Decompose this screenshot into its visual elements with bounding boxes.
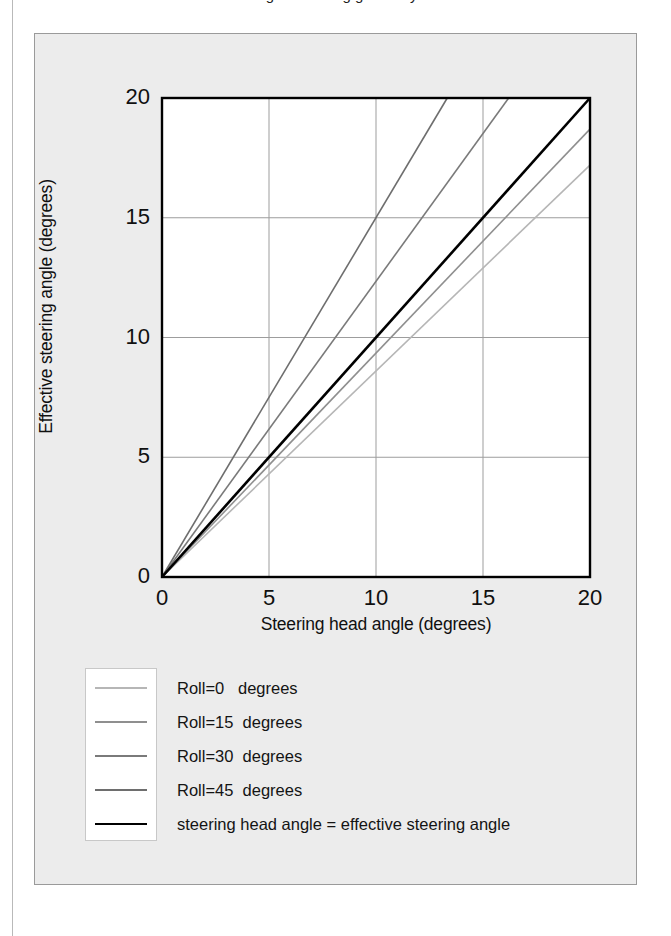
legend-item[interactable]: Roll=15 degrees bbox=[85, 708, 302, 736]
x-tick-label: 20 bbox=[568, 587, 612, 609]
legend-label: Roll=15 degrees bbox=[177, 713, 302, 732]
x-tick-label: 10 bbox=[354, 587, 398, 609]
legend-label: Roll=45 degrees bbox=[177, 781, 302, 800]
legend-swatch-line-icon bbox=[95, 789, 147, 791]
x-tick-label: 5 bbox=[247, 587, 291, 609]
y-tick-label: 15 bbox=[106, 206, 150, 228]
legend-label: Roll=0 degrees bbox=[177, 679, 298, 698]
legend-label: Roll=30 degrees bbox=[177, 747, 302, 766]
y-axis-title: Effective steering angle (degrees) bbox=[36, 157, 57, 457]
legend-item[interactable]: Roll=0 degrees bbox=[85, 674, 298, 702]
legend-swatch-line-icon bbox=[95, 687, 147, 689]
y-tick-label: 10 bbox=[106, 326, 150, 348]
legend-item[interactable]: Roll=30 degrees bbox=[85, 742, 302, 770]
legend-label: steering head angle = effective steering… bbox=[177, 815, 510, 834]
legend-swatch-line-icon bbox=[95, 755, 147, 757]
legend-swatch-line-icon bbox=[95, 823, 147, 826]
x-axis-title: Steering head angle (degrees) bbox=[162, 614, 590, 635]
y-tick-label: 5 bbox=[106, 445, 150, 467]
y-tick-label: 20 bbox=[106, 86, 150, 108]
legend-item[interactable]: steering head angle = effective steering… bbox=[85, 810, 510, 838]
legend-swatch-line-icon bbox=[95, 721, 147, 723]
chart-plot-area: Effective steering angle (degrees) Steer… bbox=[0, 0, 671, 936]
x-tick-label: 0 bbox=[140, 587, 184, 609]
legend-item[interactable]: Roll=45 degrees bbox=[85, 776, 302, 804]
x-tick-label: 15 bbox=[461, 587, 505, 609]
y-tick-label: 0 bbox=[106, 565, 150, 587]
